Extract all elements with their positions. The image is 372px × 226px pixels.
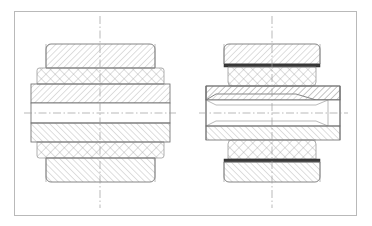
left-roller-cage-bottom <box>37 142 164 158</box>
right-flange-sleeve-bottom <box>206 126 340 140</box>
left-inner-race-top <box>31 84 170 103</box>
right-flange-sleeve-top <box>206 86 340 100</box>
technical-drawing-canvas <box>0 0 372 226</box>
cross-section-drawing <box>0 0 372 226</box>
left-outer-race-bottom <box>46 158 155 182</box>
left-inner-race-bottom <box>31 123 170 142</box>
left-view <box>24 16 176 208</box>
left-outer-race-top <box>46 44 155 68</box>
left-roller-cage-top <box>37 68 164 84</box>
right-view <box>199 16 348 208</box>
